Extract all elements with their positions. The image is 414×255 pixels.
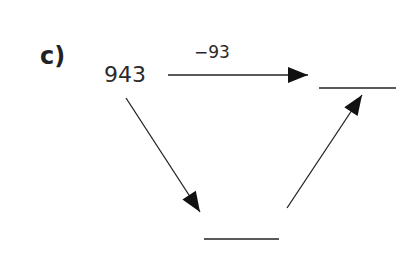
arrow-diagram — [0, 0, 414, 255]
arrow-down — [126, 98, 200, 212]
arrow-up — [287, 95, 362, 208]
